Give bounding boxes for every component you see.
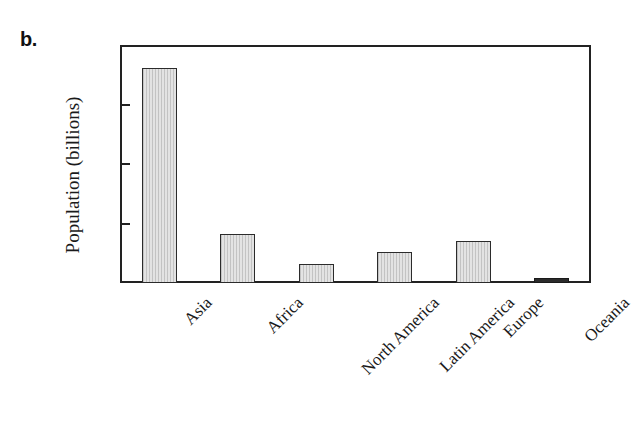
y-axis-title: Population (billions) [62, 55, 84, 295]
panel-label: b. [20, 28, 37, 51]
y-tick-mark [120, 104, 130, 106]
y-tick-mark [120, 163, 130, 165]
bar-north-america [299, 264, 334, 283]
plot-frame [120, 45, 591, 283]
x-tick-label: Africa [262, 293, 307, 338]
bar-europe [456, 241, 491, 283]
bar-asia [142, 68, 177, 283]
y-tick-mark [120, 223, 130, 225]
bar-latin-america [377, 252, 412, 283]
x-tick-label: North America [358, 293, 444, 379]
x-tick-label: Oceania [580, 293, 634, 347]
bar-oceania [534, 278, 569, 283]
x-tick-label: Asia [180, 293, 216, 329]
bar-africa [220, 234, 255, 283]
